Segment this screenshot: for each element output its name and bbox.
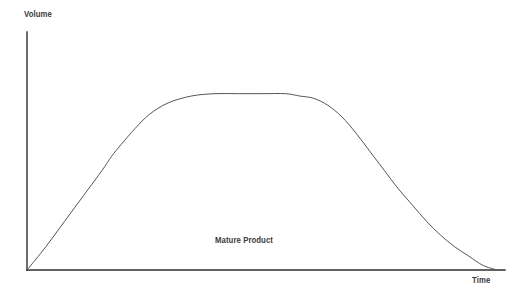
- product-life-cycle-chart: Volume Time Mature Product: [0, 0, 523, 291]
- y-axis-label: Volume: [24, 9, 52, 20]
- mature-product-annotation: Mature Product: [215, 235, 273, 246]
- chart-canvas: [0, 0, 523, 291]
- x-axis-label: Time: [472, 275, 490, 286]
